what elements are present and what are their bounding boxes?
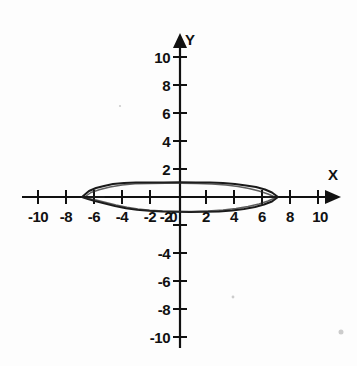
coordinate-plane: -10 -8 -6 -4 -2 2 4 6 8 10 10 8 6 4 2 -2… (0, 0, 357, 366)
y-axis-label: Y (185, 31, 195, 48)
x-axis (22, 190, 341, 204)
graph-screenshot: -10 -8 -6 -4 -2 2 4 6 8 10 10 8 6 4 2 -2… (0, 0, 357, 366)
y-tick-label-2: 2 (162, 161, 170, 178)
x-tick-label-6: 6 (258, 208, 266, 225)
y-tick-label-8: 8 (162, 77, 170, 94)
x-tick-label-10: 10 (312, 208, 328, 225)
y-tick-label-6: 6 (162, 105, 170, 122)
y-tick-label--8: -8 (158, 301, 170, 318)
x-tick-label--6: -6 (88, 208, 100, 225)
x-tick-label--8: -8 (60, 208, 72, 225)
origin-label: 0 (169, 208, 177, 225)
y-axis (173, 33, 187, 348)
y-tick-label-4: 4 (162, 133, 171, 150)
x-tick-label--10: -10 (28, 208, 48, 225)
x-tick-label--2: -2 (144, 208, 156, 225)
x-tick-label-2: 2 (202, 208, 210, 225)
x-tick-labels: -10 -8 -6 -4 -2 2 4 6 8 10 (28, 208, 328, 225)
y-tick-label--4: -4 (158, 245, 171, 262)
y-tick-labels-negative: -2 -4 -6 -8 -10 (150, 208, 172, 346)
y-tick-label--6: -6 (158, 273, 170, 290)
x-axis-arrow-icon (325, 190, 341, 204)
x-axis-label: X (328, 166, 338, 183)
x-tick-label-8: 8 (286, 208, 294, 225)
x-tick-label-4: 4 (230, 208, 239, 225)
x-tick-label--4: -4 (116, 208, 129, 225)
y-tick-label-10: 10 (154, 49, 170, 66)
y-tick-labels-positive: 10 8 6 4 2 (154, 49, 171, 178)
y-tick-label--10: -10 (150, 329, 170, 346)
